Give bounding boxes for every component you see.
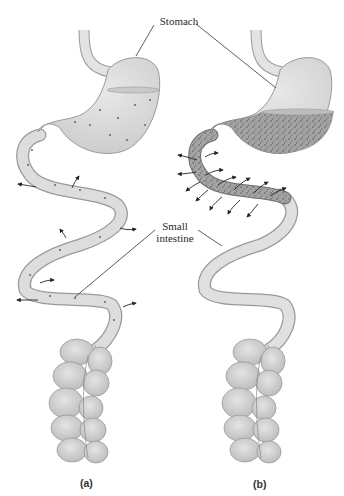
panel-b xyxy=(178,30,334,463)
panel-b-label: (b) xyxy=(253,478,266,490)
stomach-label: Stomach xyxy=(154,15,204,27)
digestive-diagram: Stomach Small intestine (a) (b) xyxy=(0,0,344,496)
small-intestine-label: Small intestine xyxy=(150,220,200,244)
large-intestine-a xyxy=(49,339,112,463)
small-intestine-b-lower xyxy=(204,195,291,350)
dense-contents-b xyxy=(210,112,333,153)
small-intestine-label-line1: Small xyxy=(150,220,200,232)
panel-a-label: (a) xyxy=(80,477,93,489)
diagram-illustration xyxy=(0,0,344,496)
panel-a xyxy=(17,30,160,463)
small-intestine-label-line2: intestine xyxy=(150,232,200,244)
large-intestine-b xyxy=(222,339,285,463)
